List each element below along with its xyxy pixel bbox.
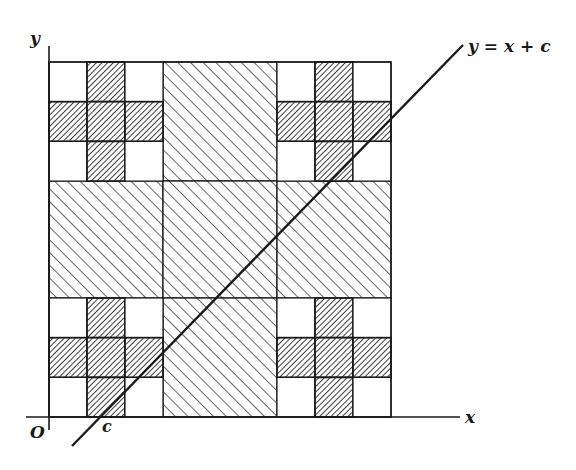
hatched-cell bbox=[277, 338, 315, 378]
coarse-block-middle-left bbox=[49, 181, 163, 298]
empty-cell bbox=[125, 62, 163, 102]
empty-cell bbox=[49, 62, 87, 102]
hatched-cell bbox=[315, 338, 353, 378]
hatched-cell bbox=[315, 377, 353, 417]
empty-cell bbox=[49, 377, 87, 417]
cross-bottom-right bbox=[277, 298, 391, 417]
coarse-block-bottom-middle bbox=[163, 298, 277, 417]
empty-cell bbox=[277, 62, 315, 102]
origin-label: O bbox=[30, 422, 45, 442]
hatched-cell bbox=[315, 298, 353, 338]
cross-top-right bbox=[277, 62, 391, 181]
coarse-block-middle-right bbox=[277, 181, 391, 298]
hatched-cell bbox=[353, 338, 391, 378]
hatched-cell bbox=[87, 141, 125, 181]
empty-cell bbox=[353, 377, 391, 417]
hatched-cell bbox=[87, 62, 125, 102]
hatched-cell bbox=[87, 298, 125, 338]
cross-bottom-left bbox=[49, 298, 163, 417]
empty-cell bbox=[277, 141, 315, 181]
hatched-cell bbox=[353, 102, 391, 142]
hatched-cell bbox=[277, 102, 315, 142]
hatched-cell bbox=[315, 102, 353, 142]
empty-cell bbox=[277, 377, 315, 417]
empty-cell bbox=[125, 377, 163, 417]
hatched-cell bbox=[49, 102, 87, 142]
empty-cell bbox=[353, 62, 391, 102]
empty-cell bbox=[49, 298, 87, 338]
empty-cell bbox=[353, 141, 391, 181]
coarse-block-top-middle bbox=[163, 62, 277, 181]
hatched-cell bbox=[87, 338, 125, 378]
x-axis-label: x bbox=[464, 407, 476, 427]
y-axis-label: y bbox=[29, 28, 41, 48]
diagram-canvas: y x O c y = x + c bbox=[0, 0, 576, 470]
hatched-cell bbox=[49, 338, 87, 378]
coarse-block-center bbox=[163, 181, 277, 298]
hatched-cell bbox=[125, 102, 163, 142]
line-equation-label: y = x + c bbox=[467, 36, 551, 56]
intercept-label: c bbox=[102, 417, 112, 436]
hatched-cell bbox=[87, 102, 125, 142]
hatched-cell bbox=[315, 141, 353, 181]
cross-top-left bbox=[49, 62, 163, 181]
empty-cell bbox=[125, 141, 163, 181]
empty-cell bbox=[49, 141, 87, 181]
empty-cell bbox=[125, 298, 163, 338]
empty-cell bbox=[277, 298, 315, 338]
empty-cell bbox=[353, 298, 391, 338]
hatched-cell bbox=[315, 62, 353, 102]
